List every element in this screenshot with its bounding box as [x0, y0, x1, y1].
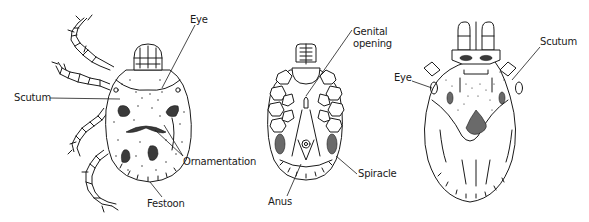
figure-dorsal-male: [412, 22, 540, 202]
label-genital-opening-line1: Genital: [353, 26, 387, 38]
label-ornamentation: Ornamentation: [183, 156, 256, 168]
label-spiracle: Spiracle: [358, 168, 397, 180]
diagram-drawing: [0, 0, 589, 222]
label-eye-fig3: Eye: [394, 72, 412, 84]
label-genital-opening-line2: opening: [353, 38, 392, 50]
tick-anatomy-diagram: Eye Scutum Ornamentation Festoon Genital…: [0, 0, 589, 222]
label-festoon: Festoon: [147, 198, 185, 210]
label-scutum-fig3: Scutum: [540, 36, 577, 48]
label-scutum-fig1: Scutum: [14, 92, 51, 104]
figure-ventral: [268, 30, 357, 196]
figure-dorsal-female: [50, 15, 195, 212]
label-eye-fig1: Eye: [190, 14, 208, 26]
label-anus: Anus: [268, 196, 292, 208]
